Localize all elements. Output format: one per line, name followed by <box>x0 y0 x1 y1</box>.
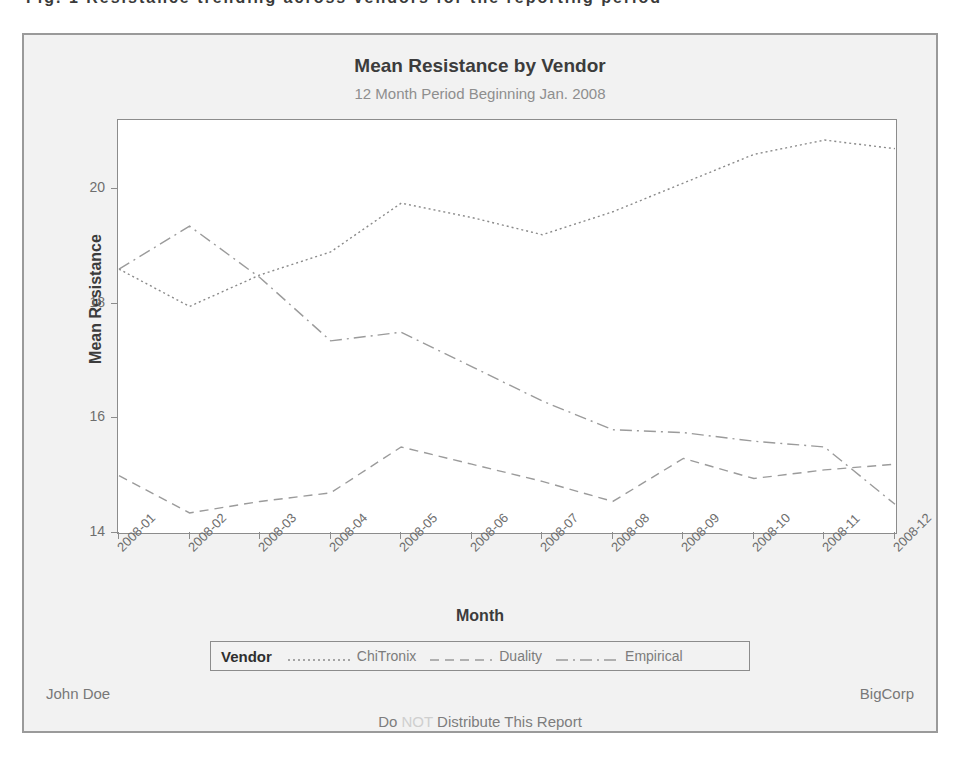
x-axis-title: Month <box>24 607 936 625</box>
legend-entry-empirical: Empirical <box>556 648 683 664</box>
chart-figure-frame: Mean Resistance by Vendor 12 Month Perio… <box>22 33 938 733</box>
legend-entry-chitronix: ChiTronix <box>288 648 416 664</box>
chart-legend: Vendor ChiTronixDualityEmpirical <box>210 641 750 671</box>
y-tick-mark <box>111 303 117 304</box>
legend-label-duality: Duality <box>499 648 542 664</box>
chart-title: Mean Resistance by Vendor <box>24 55 936 77</box>
footer-notice-suffix: Distribute This Report <box>437 713 582 730</box>
legend-label-empirical: Empirical <box>625 648 683 664</box>
footer-author: John Doe <box>46 685 110 702</box>
footer-company: BigCorp <box>860 685 914 702</box>
plot-area <box>117 119 897 534</box>
clipped-header-label: Fig. 1 Resistance trending across vendor… <box>0 0 963 7</box>
legend-swatch-chitronix <box>288 651 350 661</box>
legend-entry-duality: Duality <box>430 648 542 664</box>
y-tick-label: 16 <box>65 408 105 424</box>
y-tick-label: 20 <box>65 179 105 195</box>
legend-title: Vendor <box>221 648 272 665</box>
legend-swatch-empirical <box>556 651 618 661</box>
y-tick-label: 18 <box>65 294 105 310</box>
series-line-empirical <box>119 226 895 504</box>
clipped-header-text: Fig. 1 Resistance trending across vendor… <box>0 0 963 11</box>
footer-notice-prefix: Do <box>378 713 397 730</box>
y-tick-label: 14 <box>65 523 105 539</box>
footer-notice: Do NOT Distribute This Report <box>24 713 936 730</box>
y-tick-mark <box>111 417 117 418</box>
y-tick-mark <box>111 188 117 189</box>
legend-swatch-duality <box>430 651 492 661</box>
footer-notice-emphasis: NOT <box>402 713 433 730</box>
series-line-chitronix <box>119 140 895 306</box>
series-line-duality <box>119 447 895 513</box>
legend-label-chitronix: ChiTronix <box>357 648 416 664</box>
chart-subtitle: 12 Month Period Beginning Jan. 2008 <box>24 85 936 102</box>
series-lines <box>118 120 896 533</box>
y-tick-mark <box>111 532 117 533</box>
